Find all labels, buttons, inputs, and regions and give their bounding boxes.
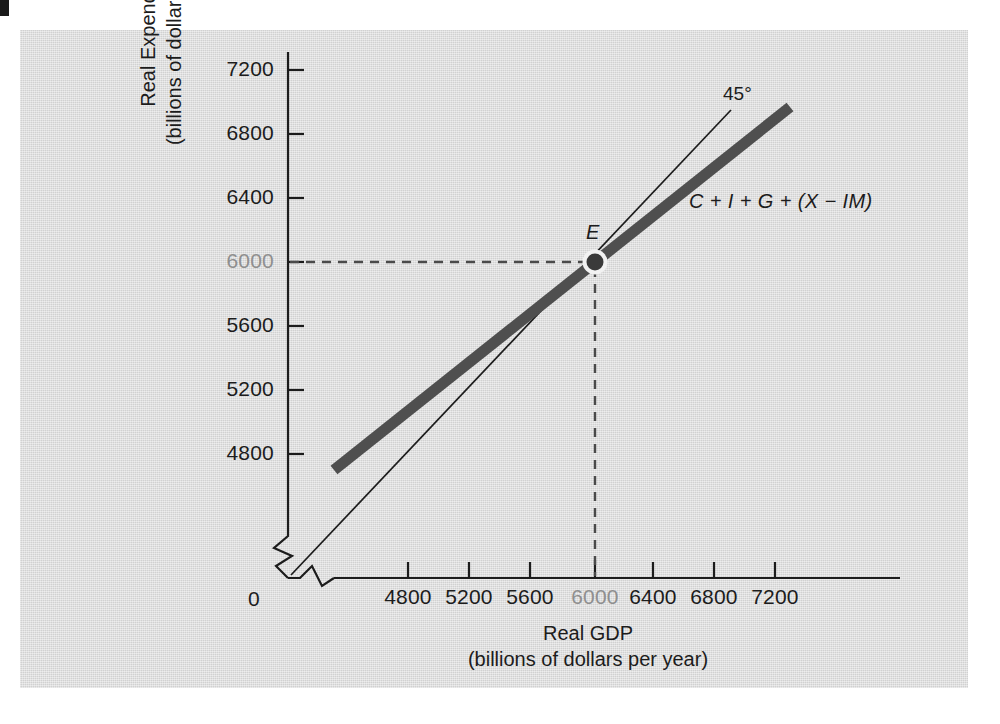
expenditure-schedule-label: C + I + G + (X − IM) (689, 191, 873, 212)
x-axis-title-line2: (billions of dollars per year) (288, 646, 888, 672)
x-axis-title-line1: Real GDP (288, 620, 888, 646)
x-axis-title: Real GDP (billions of dollars per year) (288, 620, 888, 672)
scan-edge-artifact (0, 0, 11, 16)
y-tick-label-5200: 5200 (164, 378, 274, 400)
y-axis-title: Real Expenditures (billions of dollars p… (136, 0, 187, 170)
equilibrium-point-label: E (586, 222, 599, 243)
forty-five-degree-label: 45° (723, 84, 752, 104)
y-tick-label-5600: 5600 (164, 314, 274, 336)
y-axis-title-line1: Real Expenditures (136, 0, 162, 170)
y-axis-title-line2: (billions of dollars per year) (162, 0, 188, 170)
y-tick-label-6000: 6000 (164, 250, 274, 272)
x-tick-label-7200: 7200 (725, 586, 825, 608)
y-tick-label-4800: 4800 (164, 442, 274, 464)
y-tick-label-6400: 6400 (164, 186, 274, 208)
origin-label: 0 (248, 588, 260, 610)
